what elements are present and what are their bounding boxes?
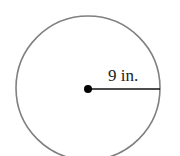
radius-label: 9 in. (108, 66, 138, 85)
center-point (84, 85, 92, 93)
circle-diagram: 9 in. (0, 0, 180, 156)
